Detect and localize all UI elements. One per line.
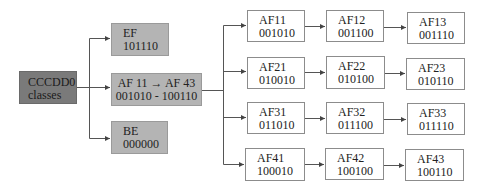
node-code: 011010 [259, 119, 304, 132]
node-code: 010100 [338, 73, 384, 86]
node-af32: AF32 011100 [326, 102, 384, 134]
node-code: 010010 [259, 74, 304, 87]
node-code: 011110 [419, 120, 464, 133]
node-af11: AF11 001010 [247, 10, 305, 42]
node-af12: AF12 001100 [326, 10, 384, 42]
node-code: 100010 [257, 165, 304, 178]
node-code: 000000 [123, 138, 167, 151]
node-code: 101110 [123, 40, 168, 53]
node-code-range: 001010 - 100110 [112, 90, 201, 103]
node-code: 100100 [337, 165, 383, 178]
node-af21: AF21 010010 [247, 57, 305, 89]
node-af42: AF42 100100 [325, 148, 384, 180]
node-af41: AF41 100010 [245, 148, 305, 181]
node-ef: EF 101110 [111, 23, 169, 56]
node-code: 100110 [417, 166, 463, 179]
node-af13: AF13 001110 [407, 12, 465, 44]
node-af22: AF22 010100 [326, 56, 385, 89]
node-af23: AF23 010110 [406, 58, 465, 90]
node-be: BE 000000 [111, 121, 168, 154]
node-af33: AF33 011110 [407, 103, 465, 135]
node-code: 001110 [419, 29, 464, 42]
node-code: 011100 [338, 119, 383, 132]
node-code: 010110 [418, 75, 464, 88]
node-af43: AF43 100110 [405, 149, 464, 181]
node-af-range: AF 11 → AF 43 001010 - 100110 [111, 73, 202, 106]
node-sublabel: classes [28, 89, 76, 102]
node-code: 001100 [338, 27, 383, 40]
diagram-canvas: CCCDD0 classes EF 101110 AF 11 → AF 43 0… [0, 0, 486, 190]
node-af31: AF31 011010 [247, 102, 305, 134]
node-cccdd0-classes: CCCDD0 classes [19, 71, 77, 104]
node-code: 001010 [259, 27, 304, 40]
